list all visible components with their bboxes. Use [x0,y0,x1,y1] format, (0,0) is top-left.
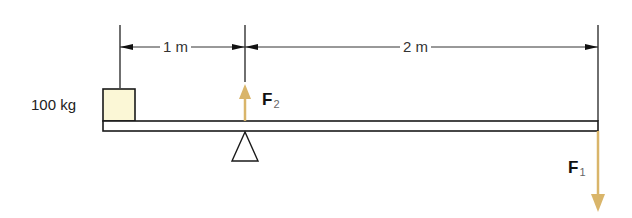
force-subscript: 1 [579,166,585,178]
force-symbol: F [568,158,578,177]
dimension-label-2m: 2 m [400,39,431,55]
force-symbol: F [262,90,272,109]
fulcrum-triangle-icon [232,132,258,161]
arrowhead-right-icon [585,44,598,50]
arrowhead-up-icon [239,84,251,99]
arrowhead-right-icon [232,44,245,50]
force-subscript: 2 [273,98,279,110]
dimension-label-1m: 1 m [160,39,191,55]
arrowhead-left-icon [245,44,258,50]
lever-beam [103,121,598,131]
lever-diagram [0,0,632,218]
force-label-f1: F1 [568,158,586,178]
mass-label: 100 kg [31,96,76,113]
mass-box [103,89,135,121]
force-label-f2: F2 [262,90,280,110]
arrowhead-down-icon [591,194,605,212]
arrowhead-left-icon [120,44,133,50]
